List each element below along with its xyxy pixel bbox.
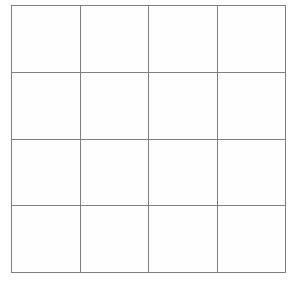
- grid-cell-label: [149, 206, 217, 272]
- grid-cell-label: [81, 73, 149, 139]
- grid-cell-label: [12, 6, 80, 72]
- table-row: [12, 6, 286, 73]
- grid-figure: [11, 5, 286, 273]
- grid-cell-r3c3[interactable]: [149, 139, 218, 206]
- grid-cell-label: [81, 6, 149, 72]
- grid-cell-label: [218, 6, 286, 72]
- grid-body: [12, 6, 286, 273]
- grid-cell-r3c2[interactable]: [80, 139, 149, 206]
- grid-cell-label: [218, 206, 286, 272]
- grid-cell-r1c1[interactable]: [12, 6, 81, 73]
- grid-cell-r3c1[interactable]: [12, 139, 81, 206]
- grid-cell-label: [81, 206, 149, 272]
- grid-cell-r4c4[interactable]: [217, 206, 286, 273]
- table-row: [12, 72, 286, 139]
- grid-cell-r1c2[interactable]: [80, 6, 149, 73]
- grid-cell-label: [149, 73, 217, 139]
- canvas: [0, 0, 297, 284]
- grid-cell-r1c4[interactable]: [217, 6, 286, 73]
- grid-cell-r3c4[interactable]: [217, 139, 286, 206]
- grid-cell-r1c3[interactable]: [149, 6, 218, 73]
- grid-cell-r4c2[interactable]: [80, 206, 149, 273]
- grid-cell-r4c1[interactable]: [12, 206, 81, 273]
- grid-cell-r2c3[interactable]: [149, 72, 218, 139]
- grid-cell-r4c3[interactable]: [149, 206, 218, 273]
- grid-table: [11, 5, 286, 273]
- grid-cell-label: [218, 140, 286, 206]
- grid-cell-label: [218, 73, 286, 139]
- grid-cell-r2c1[interactable]: [12, 72, 81, 139]
- grid-cell-label: [12, 140, 80, 206]
- grid-cell-label: [149, 140, 217, 206]
- grid-cell-label: [12, 206, 80, 272]
- grid-cell-label: [12, 73, 80, 139]
- grid-cell-r2c4[interactable]: [217, 72, 286, 139]
- grid-cell-label: [149, 6, 217, 72]
- table-row: [12, 139, 286, 206]
- grid-cell-label: [81, 140, 149, 206]
- table-row: [12, 206, 286, 273]
- grid-cell-r2c2[interactable]: [80, 72, 149, 139]
